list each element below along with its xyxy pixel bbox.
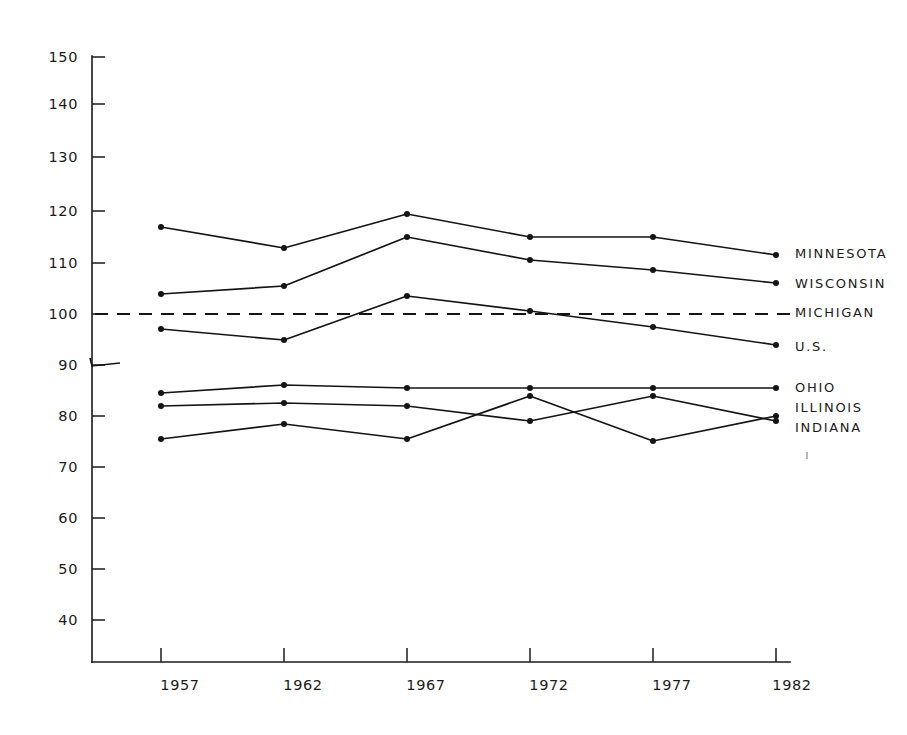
michigan-point-1982 — [773, 342, 779, 348]
series-label-us: U.S. — [795, 339, 828, 354]
illinois-point-1972 — [527, 418, 533, 424]
scan-speck — [806, 452, 808, 459]
wisconsin-point-1972 — [527, 257, 533, 263]
series-minnesota — [158, 211, 779, 258]
x-tick-marks — [161, 648, 776, 662]
y-tick-label-90: 90 — [58, 357, 78, 373]
x-tick-label-1977: 1977 — [652, 677, 691, 693]
chart-canvas: 150 140 130 120 110 100 90 80 70 60 50 4… — [0, 0, 907, 735]
illinois-point-1977 — [650, 393, 656, 399]
indiana-point-1977 — [650, 438, 656, 444]
wisconsin-point-1962 — [281, 283, 287, 289]
series-end-labels-legend: MINNESOTA WISCONSIN MICHIGAN U.S. OHIO I… — [795, 246, 887, 435]
ohio-point-1957 — [158, 390, 164, 396]
michigan-point-1977 — [650, 324, 656, 330]
series-label-illinois: ILLINOIS — [795, 400, 863, 415]
series-indiana — [158, 393, 779, 444]
series-label-ohio: OHIO — [795, 380, 836, 395]
minnesota-point-1957 — [158, 224, 164, 230]
indiana-point-1962 — [281, 421, 287, 427]
x-tick-label-1982: 1982 — [772, 677, 811, 693]
ohio-point-1982 — [773, 385, 779, 391]
y-axis-tick-labels: 150 140 130 120 110 100 90 80 70 60 50 4… — [49, 49, 78, 628]
ohio-line — [161, 385, 776, 393]
x-tick-label-1967: 1967 — [406, 677, 445, 693]
series-label-wisconsin: WISCONSIN — [795, 276, 886, 291]
indiana-point-1982 — [773, 413, 779, 419]
illinois-point-1962 — [281, 400, 287, 406]
axis-group — [92, 56, 790, 662]
minnesota-point-1962 — [281, 245, 287, 251]
y-tick-label-70: 70 — [58, 459, 78, 475]
y-tick-label-50: 50 — [58, 561, 78, 577]
michigan-point-1957 — [158, 326, 164, 332]
y-tick-label-130: 130 — [49, 149, 78, 165]
x-axis-tick-labels: 1957 1962 1967 1972 1977 1982 — [160, 677, 811, 693]
indiana-point-1957 — [158, 436, 164, 442]
series-wisconsin — [158, 234, 779, 297]
y-tick-label-40: 40 — [58, 612, 78, 628]
y-tick-marks — [92, 57, 105, 620]
x-tick-label-1957: 1957 — [160, 677, 199, 693]
y-tick-label-140: 140 — [49, 96, 78, 112]
ohio-point-1972 — [527, 385, 533, 391]
y-tick-label-120: 120 — [49, 203, 78, 219]
series-label-michigan: MICHIGAN — [795, 305, 875, 320]
wisconsin-point-1982 — [773, 280, 779, 286]
ohio-point-1977 — [650, 385, 656, 391]
minnesota-point-1967 — [404, 211, 410, 217]
indiana-point-1972 — [527, 393, 533, 399]
ohio-point-1967 — [404, 385, 410, 391]
michigan-point-1962 — [281, 337, 287, 343]
ohio-point-1962 — [281, 382, 287, 388]
minnesota-point-1972 — [527, 234, 533, 240]
indiana-point-1967 — [404, 436, 410, 442]
series-michigan — [158, 293, 779, 348]
wisconsin-point-1977 — [650, 267, 656, 273]
wisconsin-point-1957 — [158, 291, 164, 297]
y-tick-label-80: 80 — [58, 408, 78, 424]
y-tick-label-110: 110 — [49, 255, 78, 271]
series-label-minnesota: MINNESOTA — [795, 246, 887, 261]
line-chart-figure: 150 140 130 120 110 100 90 80 70 60 50 4… — [0, 0, 907, 735]
y-tick-label-150: 150 — [49, 49, 78, 65]
minnesota-point-1982 — [773, 252, 779, 258]
series-label-indiana: INDIANA — [795, 420, 862, 435]
x-tick-label-1972: 1972 — [529, 677, 568, 693]
illinois-point-1967 — [404, 403, 410, 409]
series-illinois — [158, 393, 779, 424]
y-tick-label-60: 60 — [58, 510, 78, 526]
illinois-point-1957 — [158, 403, 164, 409]
michigan-line — [161, 296, 776, 345]
wisconsin-line — [161, 237, 776, 294]
wisconsin-point-1967 — [404, 234, 410, 240]
michigan-point-1967 — [404, 293, 410, 299]
minnesota-point-1977 — [650, 234, 656, 240]
michigan-point-1972 — [527, 308, 533, 314]
series-ohio — [158, 382, 779, 396]
y-tick-label-100: 100 — [49, 306, 78, 322]
x-tick-label-1962: 1962 — [283, 677, 322, 693]
